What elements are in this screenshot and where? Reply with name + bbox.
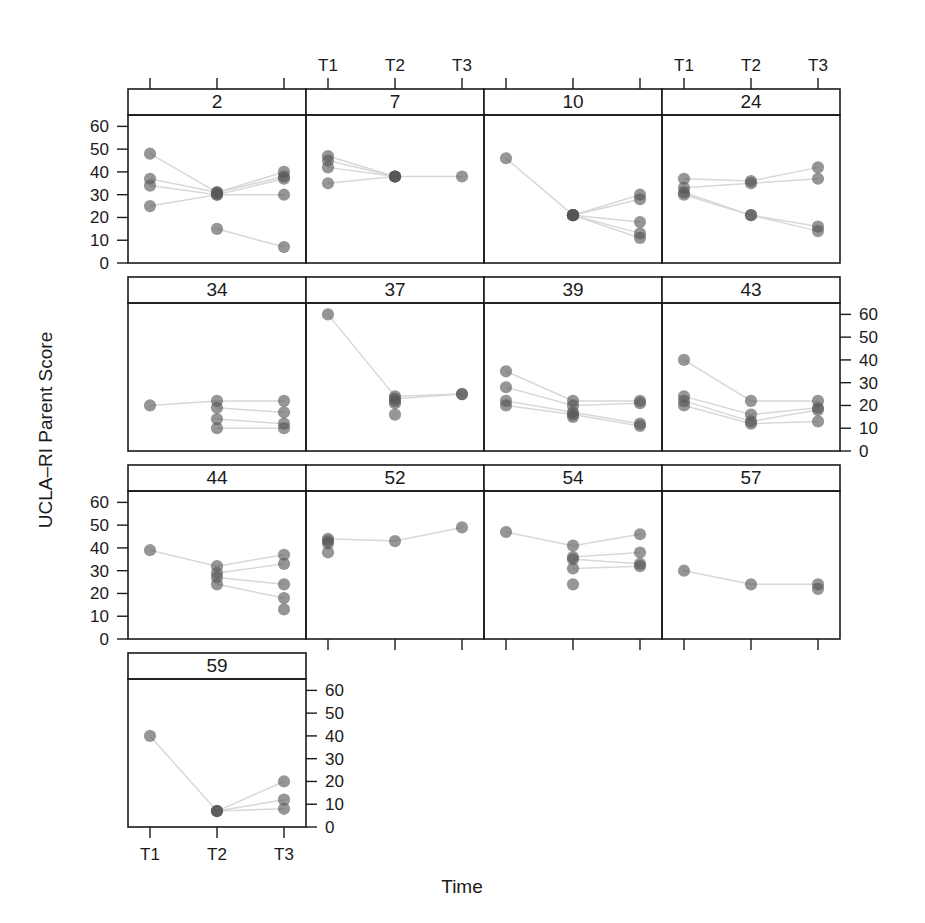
data-point xyxy=(211,402,223,414)
series-line xyxy=(217,408,284,413)
y-tick-label: 60 xyxy=(859,305,878,324)
data-point xyxy=(278,241,290,253)
data-point xyxy=(322,546,334,558)
data-point xyxy=(678,565,690,577)
data-point xyxy=(634,560,646,572)
data-point xyxy=(389,170,401,182)
x-tick-label-top: T2 xyxy=(741,56,761,75)
x-tick-label-bottom: T3 xyxy=(274,845,294,864)
series-line xyxy=(217,578,284,585)
series-line xyxy=(328,314,462,396)
x-tick-label-top: T2 xyxy=(385,56,405,75)
data-point xyxy=(278,578,290,590)
series-line xyxy=(217,564,284,573)
panel-strip-label: 43 xyxy=(740,279,761,300)
series-line xyxy=(217,419,284,424)
y-tick-label: 10 xyxy=(325,795,344,814)
series-line xyxy=(217,229,284,247)
y-tick-label: 50 xyxy=(859,328,878,347)
data-point xyxy=(278,775,290,787)
data-point xyxy=(456,521,468,533)
data-point xyxy=(678,354,690,366)
data-point xyxy=(812,225,824,237)
panel-frame xyxy=(306,115,484,263)
x-tick-label-top: T3 xyxy=(452,56,472,75)
data-point xyxy=(567,209,579,221)
panel-strip-label: 54 xyxy=(562,467,584,488)
data-point xyxy=(567,411,579,423)
data-point xyxy=(211,422,223,434)
y-tick-label: 60 xyxy=(90,493,109,512)
y-tick-label: 40 xyxy=(90,163,109,182)
y-tick-label: 10 xyxy=(90,231,109,250)
data-point xyxy=(144,399,156,411)
y-tick-label: 60 xyxy=(90,117,109,136)
data-point xyxy=(500,365,512,377)
data-point xyxy=(278,189,290,201)
y-tick-label: 30 xyxy=(90,186,109,205)
trellis-figure: T1T2T3T1T2T3T1T2T32710243437394344525457… xyxy=(0,0,925,923)
data-point xyxy=(322,161,334,173)
data-point xyxy=(278,173,290,185)
panel-strip-label: 59 xyxy=(206,655,227,676)
data-point xyxy=(500,381,512,393)
data-point xyxy=(278,406,290,418)
panel-strip-label: 10 xyxy=(562,91,583,112)
data-point xyxy=(278,803,290,815)
series-line xyxy=(573,566,640,568)
data-point xyxy=(278,395,290,407)
data-point xyxy=(745,418,757,430)
x-tick-label-bottom: T1 xyxy=(140,845,160,864)
y-tick-label: 20 xyxy=(90,584,109,603)
panel-strip-label: 7 xyxy=(390,91,401,112)
y-tick-label: 40 xyxy=(325,727,344,746)
data-point xyxy=(678,189,690,201)
y-tick-label: 30 xyxy=(859,374,878,393)
panel-strip-label: 34 xyxy=(206,279,228,300)
y-tick-label: 20 xyxy=(325,772,344,791)
y-tick-label: 10 xyxy=(859,419,878,438)
data-point xyxy=(567,578,579,590)
data-point xyxy=(678,399,690,411)
data-point xyxy=(500,399,512,411)
data-point xyxy=(278,603,290,615)
data-point xyxy=(456,170,468,182)
data-point xyxy=(389,397,401,409)
data-point xyxy=(812,415,824,427)
data-point xyxy=(634,420,646,432)
panel-strip-label: 52 xyxy=(384,467,405,488)
data-point xyxy=(634,397,646,409)
data-point xyxy=(144,179,156,191)
panel-frame xyxy=(662,491,840,639)
data-point xyxy=(745,395,757,407)
x-axis-title: Time xyxy=(441,876,483,897)
series-line xyxy=(573,199,640,215)
data-point xyxy=(144,200,156,212)
y-tick-label: 10 xyxy=(90,607,109,626)
panel-strip-label: 24 xyxy=(740,91,762,112)
series-line xyxy=(217,584,284,598)
y-tick-label: 50 xyxy=(325,704,344,723)
data-point xyxy=(456,388,468,400)
data-point xyxy=(812,404,824,416)
y-tick-label: 40 xyxy=(859,351,878,370)
x-tick-label-top: T3 xyxy=(808,56,828,75)
series-line xyxy=(506,158,640,215)
panel-frame xyxy=(306,491,484,639)
data-point xyxy=(634,546,646,558)
data-point xyxy=(322,177,334,189)
panel-frame xyxy=(128,679,306,827)
y-tick-label: 30 xyxy=(325,750,344,769)
y-tick-label: 0 xyxy=(100,630,109,649)
panel-strip-label: 39 xyxy=(562,279,583,300)
data-point xyxy=(567,540,579,552)
data-point xyxy=(745,209,757,221)
data-point xyxy=(812,583,824,595)
data-point xyxy=(745,177,757,189)
x-tick-label-bottom: T2 xyxy=(207,845,227,864)
data-point xyxy=(634,232,646,244)
data-point xyxy=(634,528,646,540)
series-line xyxy=(573,552,640,557)
y-tick-label: 0 xyxy=(325,818,334,837)
data-point xyxy=(211,578,223,590)
